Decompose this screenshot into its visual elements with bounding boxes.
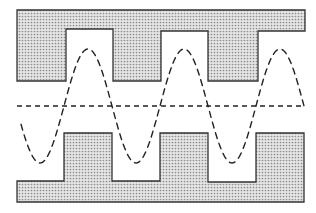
diagram-svg xyxy=(0,0,316,213)
diagram-canvas xyxy=(0,0,316,213)
bottom-electrode xyxy=(17,133,304,202)
top-electrode xyxy=(17,10,305,81)
